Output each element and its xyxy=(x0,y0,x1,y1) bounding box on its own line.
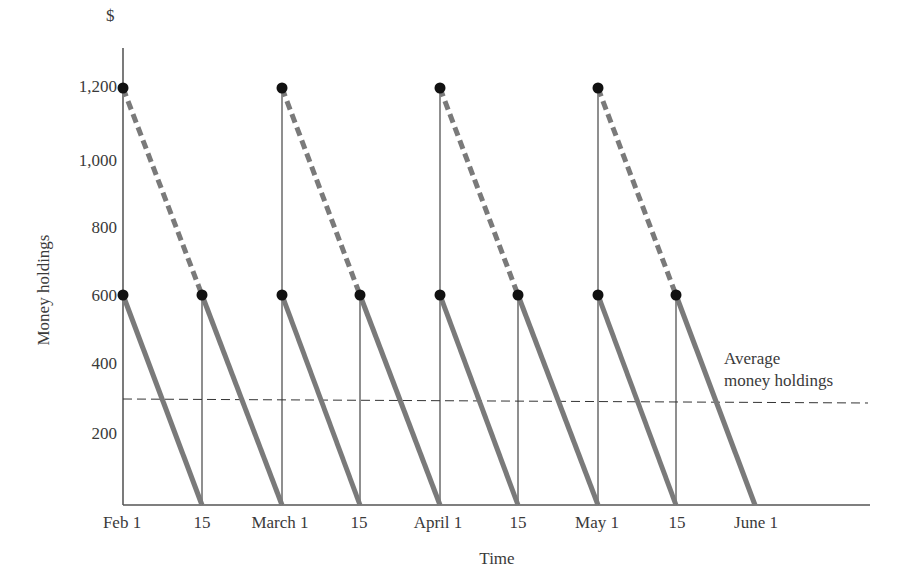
average-line xyxy=(123,399,868,403)
x-tick-june1: June 1 xyxy=(734,513,778,533)
x-tick-may15: 15 xyxy=(669,513,686,533)
data-points xyxy=(118,83,682,301)
y-unit-label: $ xyxy=(106,6,115,26)
x-tick-may1: May 1 xyxy=(575,513,619,533)
chart-canvas xyxy=(0,0,902,581)
average-annotation-line2: money holdings xyxy=(724,371,833,391)
x-tick-march15: 15 xyxy=(351,513,368,533)
average-annotation-line1: Average xyxy=(724,349,780,369)
y-tick-800: 800 xyxy=(47,218,117,238)
x-tick-feb1: Feb 1 xyxy=(103,513,141,533)
solid-series xyxy=(123,295,755,505)
x-tick-april15: 15 xyxy=(510,513,527,533)
dashed-series xyxy=(123,88,676,295)
y-tick-400: 400 xyxy=(47,354,117,374)
y-axis-label: Money holdings xyxy=(34,235,54,346)
y-tick-200: 200 xyxy=(47,424,117,444)
x-tick-feb15: 15 xyxy=(194,513,211,533)
y-tick-1200: 1,200 xyxy=(47,77,117,97)
y-tick-1000: 1,000 xyxy=(47,151,117,171)
x-axis-label: Time xyxy=(479,549,514,569)
x-tick-march1: March 1 xyxy=(251,513,308,533)
x-tick-april1: April 1 xyxy=(414,513,463,533)
y-tick-600: 600 xyxy=(47,286,117,306)
